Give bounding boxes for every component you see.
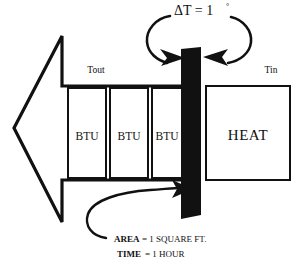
svg-text:AREA: AREA bbox=[114, 234, 140, 244]
svg-text:TIME: TIME bbox=[117, 249, 141, 259]
time-note: TIME = 1 HOUR bbox=[117, 249, 185, 259]
svg-text:°: ° bbox=[226, 2, 229, 11]
diagram-canvas: Tout Tin BTU BTU BTU HEAT ΔT = 1 ° AREA … bbox=[0, 0, 299, 266]
btu-label-2: BTU bbox=[118, 130, 142, 142]
curved-arrow-icon bbox=[87, 180, 193, 238]
loop-arrowhead-right bbox=[203, 49, 228, 66]
heat-label: HEAT bbox=[228, 127, 268, 143]
area-note: AREA = 1 SQUARE FT. bbox=[114, 234, 206, 244]
btu-label-3: BTU bbox=[156, 130, 180, 142]
svg-text:= 1 HOUR: = 1 HOUR bbox=[145, 249, 185, 259]
tout-label: Tout bbox=[87, 65, 105, 75]
delta-t-label: ΔT = 1 ° bbox=[174, 2, 229, 18]
tin-label: Tin bbox=[265, 65, 278, 75]
btu-label-1: BTU bbox=[76, 130, 100, 142]
wall-bar-icon bbox=[181, 47, 201, 219]
btu-definition-diagram: Tout Tin BTU BTU BTU HEAT ΔT = 1 ° AREA … bbox=[0, 0, 299, 266]
svg-text:= 1 SQUARE FT.: = 1 SQUARE FT. bbox=[142, 234, 206, 244]
svg-text:ΔT = 1: ΔT = 1 bbox=[174, 3, 213, 18]
